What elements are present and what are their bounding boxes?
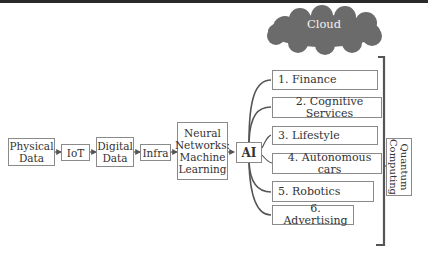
infra-box: Infra xyxy=(140,144,171,161)
digital-data-line2: Data xyxy=(97,152,133,164)
nn-line1: Neural xyxy=(175,127,230,139)
nn-line3: Machine xyxy=(175,151,230,163)
app-label: 5. Robotics xyxy=(278,186,340,198)
iot-box: IoT xyxy=(61,144,90,161)
quantum-line1: Quantum xyxy=(399,139,410,195)
physical-data-box: PhysicalData xyxy=(8,138,55,166)
digital-data-line1: Digital xyxy=(97,140,133,152)
app-finance: 1. Finance xyxy=(272,70,378,90)
app-cognitive-services: 2. Cognitive Services xyxy=(272,97,382,118)
nn-line2: Networks: xyxy=(175,139,230,151)
ai-box: AI xyxy=(236,142,262,163)
physical-data-line2: Data xyxy=(9,152,53,164)
app-label: 2. Cognitive Services xyxy=(278,96,381,120)
digital-data-box: DigitalData xyxy=(96,137,134,167)
physical-data-line1: Physical xyxy=(9,140,53,152)
app-label: 1. Finance xyxy=(278,74,337,86)
quantum-line2: Computing xyxy=(388,139,399,195)
app-label: 4. Autonomous cars xyxy=(278,152,381,176)
neural-networks-box: Neural Networks: Machine Learning xyxy=(177,122,228,180)
iot-label: IoT xyxy=(67,147,84,159)
app-advertising: 6. Advertising xyxy=(272,205,354,225)
quantum-computing-box: QuantumComputing xyxy=(386,138,412,196)
app-label: 6. Advertising xyxy=(278,203,353,227)
app-autonomous-cars: 4. Autonomous cars xyxy=(272,153,382,174)
nn-line4: Learning xyxy=(175,163,230,175)
app-robotics: 5. Robotics xyxy=(272,181,374,202)
app-label: 3. Lifestyle xyxy=(278,130,340,142)
infra-label: Infra xyxy=(142,147,168,159)
cloud-label: Cloud xyxy=(265,17,383,31)
app-lifestyle: 3. Lifestyle xyxy=(272,126,378,145)
ai-label: AI xyxy=(242,147,257,159)
